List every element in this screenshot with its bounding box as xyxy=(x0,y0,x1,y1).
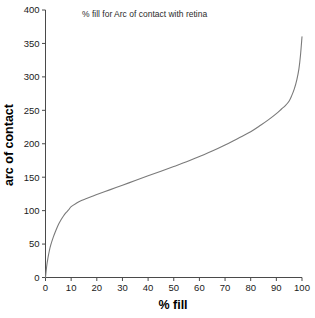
x-tick-label: 70 xyxy=(220,282,231,293)
y-axis-title-group: arc of contact xyxy=(2,103,16,186)
x-tick-label: 100 xyxy=(294,282,310,293)
x-axis-title: % fill xyxy=(158,298,187,312)
y-axis-title: arc of contact xyxy=(2,103,16,186)
data-curve-arc-of-contact xyxy=(46,37,303,278)
y-axis-ticks: 050100150200250300350400 xyxy=(24,4,46,283)
y-tick-label: 200 xyxy=(24,138,40,149)
axis-spines xyxy=(45,10,302,278)
x-tick-label: 30 xyxy=(117,282,128,293)
data-series-group xyxy=(46,37,303,278)
y-tick-label: 100 xyxy=(24,205,40,216)
x-tick-label: 60 xyxy=(194,282,205,293)
y-tick-label: 350 xyxy=(24,38,40,49)
x-tick-label: 20 xyxy=(92,282,103,293)
chart-title: % fill for Arc of contact with retina xyxy=(82,9,207,19)
y-tick-label: 400 xyxy=(24,4,40,15)
y-tick-label: 150 xyxy=(24,172,40,183)
x-axis-title-group: % fill xyxy=(158,298,187,312)
x-tick-label: 0 xyxy=(43,282,48,293)
x-tick-label: 10 xyxy=(66,282,77,293)
x-tick-label: 50 xyxy=(168,282,179,293)
x-tick-label: 40 xyxy=(143,282,154,293)
chart-title-group: % fill for Arc of contact with retina xyxy=(82,9,207,19)
y-tick-label: 300 xyxy=(24,71,40,82)
x-tick-label: 90 xyxy=(271,282,282,293)
line-chart: % fill for Arc of contact with retina 05… xyxy=(0,0,315,318)
y-tick-label: 250 xyxy=(24,105,40,116)
chart-container: % fill for Arc of contact with retina 05… xyxy=(0,0,315,318)
x-tick-label: 80 xyxy=(245,282,256,293)
y-tick-label: 50 xyxy=(29,238,40,249)
y-tick-label: 0 xyxy=(34,272,39,283)
x-axis-ticks: 0102030405060708090100 xyxy=(43,278,310,293)
